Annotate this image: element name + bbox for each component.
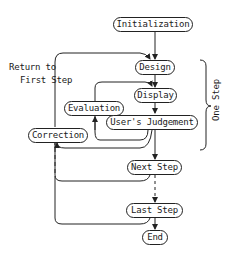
node-next-step: Next Step: [127, 160, 182, 175]
node-correction: Correction: [28, 128, 88, 143]
first-step-label-text: First Step: [20, 75, 72, 86]
node-design: Design: [135, 60, 175, 75]
node-last-step: Last Step: [126, 203, 183, 218]
node-display: Display: [134, 88, 177, 103]
one-step-label: One Step: [211, 78, 221, 122]
node-users-judgement: User's Judgement: [106, 115, 198, 130]
node-end: End: [142, 230, 168, 245]
node-initialization: Initialization: [113, 17, 193, 32]
return-to-label: Return to: [9, 62, 56, 73]
node-evaluation: Evaluation: [64, 101, 124, 116]
